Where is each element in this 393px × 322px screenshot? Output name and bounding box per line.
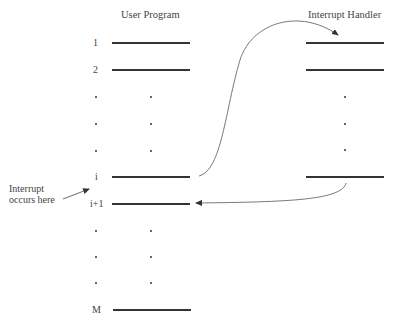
return-arrow bbox=[196, 183, 346, 203]
annotation-arrow bbox=[63, 189, 89, 199]
interrupt-jump-arrow bbox=[199, 21, 338, 176]
flow-arrows bbox=[0, 0, 393, 322]
